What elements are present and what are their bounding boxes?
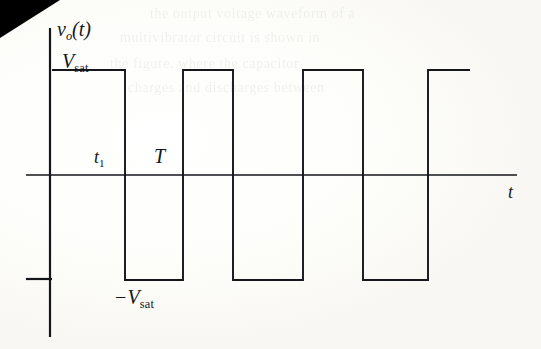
y-axis-label-symbol: v bbox=[57, 18, 66, 40]
negative-saturation-label: −Vsat bbox=[114, 286, 154, 309]
t1-label: t1 bbox=[94, 147, 105, 168]
positive-saturation-subscript: sat bbox=[74, 61, 88, 75]
y-axis-label: vo(t) bbox=[57, 18, 91, 41]
x-axis-label: t bbox=[508, 182, 513, 203]
positive-saturation-label: Vsat bbox=[62, 50, 89, 73]
y-axis-label-argument: (t) bbox=[72, 18, 91, 40]
negative-saturation-subscript: sat bbox=[140, 297, 154, 311]
period-label: T bbox=[154, 145, 165, 168]
figure-canvas: the output voltage waveform of a multivi… bbox=[0, 0, 541, 349]
y-axis-label-subscript: o bbox=[66, 29, 72, 43]
t1-subscript: 1 bbox=[99, 157, 105, 169]
positive-saturation-symbol: V bbox=[62, 50, 74, 72]
negative-saturation-symbol: −V bbox=[114, 286, 140, 308]
